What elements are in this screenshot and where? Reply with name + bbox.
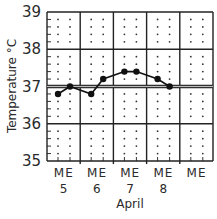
grid-dot xyxy=(69,108,71,110)
grid-dot xyxy=(90,26,92,28)
x-label-e: E xyxy=(198,166,206,180)
data-point xyxy=(133,68,139,74)
grid-dot xyxy=(136,93,138,95)
grid-dot xyxy=(169,108,171,110)
grid-dot xyxy=(90,108,92,110)
grid-dot xyxy=(90,153,92,155)
grid-dot xyxy=(169,145,171,147)
y-tick-label: 38 xyxy=(22,40,41,58)
grid-dot xyxy=(124,153,126,155)
y-tick-label: 35 xyxy=(22,152,41,170)
grid-dot xyxy=(102,63,104,65)
grid-dot xyxy=(190,26,192,28)
grid-dot xyxy=(102,153,104,155)
grid-dot xyxy=(157,63,159,65)
grid-dot xyxy=(157,130,159,132)
grid-dot xyxy=(69,71,71,73)
grid-dot xyxy=(190,33,192,35)
grid-dot xyxy=(136,108,138,110)
grid-dot xyxy=(69,115,71,117)
grid-dot xyxy=(202,78,204,80)
grid-dot xyxy=(169,78,171,80)
x-label-e: E xyxy=(165,166,173,180)
grid-dot xyxy=(57,19,59,21)
grid-dot xyxy=(136,19,138,21)
temperature-chart: 3938373635 ME5ME6ME7ME8ME Temperature °C… xyxy=(0,0,217,219)
data-point xyxy=(67,83,73,89)
grid-dot xyxy=(57,115,59,117)
grid-dot xyxy=(190,71,192,73)
grid-dot xyxy=(157,108,159,110)
grid-dot xyxy=(124,101,126,103)
grid-dot xyxy=(169,93,171,95)
data-point xyxy=(88,91,94,97)
grid-dot xyxy=(202,26,204,28)
x-label-e: E xyxy=(132,166,140,180)
grid-dot xyxy=(190,115,192,117)
grid-dot xyxy=(202,115,204,117)
grid-dot xyxy=(136,145,138,147)
data-point xyxy=(100,76,106,82)
grid-dot xyxy=(202,130,204,132)
grid-dot xyxy=(157,138,159,140)
grid-dot xyxy=(202,145,204,147)
grid-dot xyxy=(102,138,104,140)
grid-dot xyxy=(57,145,59,147)
x-label-m: M xyxy=(153,166,163,180)
grid-dot xyxy=(69,130,71,132)
grid-dot xyxy=(190,93,192,95)
y-axis-title: Temperature °C xyxy=(5,39,19,134)
grid-dot xyxy=(102,56,104,58)
grid-dot xyxy=(57,56,59,58)
grid-dot xyxy=(69,63,71,65)
grid-dot xyxy=(90,78,92,80)
grid-dot xyxy=(102,41,104,43)
grid-dot xyxy=(157,115,159,117)
grid-dot xyxy=(102,93,104,95)
y-tick-label: 36 xyxy=(22,115,41,133)
grid-dot xyxy=(169,26,171,28)
grid-dot xyxy=(102,108,104,110)
grid-dot xyxy=(90,138,92,140)
grid-dot xyxy=(69,145,71,147)
grid-dot xyxy=(69,56,71,58)
grid-dot xyxy=(190,19,192,21)
grid-dot xyxy=(124,26,126,28)
grid-dot xyxy=(169,71,171,73)
x-label-day: 8 xyxy=(159,182,167,196)
data-point xyxy=(154,76,160,82)
grid-dot xyxy=(57,108,59,110)
grid-dot xyxy=(57,78,59,80)
grid-dot xyxy=(202,93,204,95)
grid-dot xyxy=(102,101,104,103)
data-point xyxy=(121,68,127,74)
grid-dot xyxy=(124,56,126,58)
grid-dot xyxy=(157,153,159,155)
grid-dot xyxy=(169,153,171,155)
grid-dot xyxy=(169,101,171,103)
grid-dot xyxy=(124,108,126,110)
grid-dot xyxy=(57,41,59,43)
grid-dot xyxy=(57,63,59,65)
grid-dot xyxy=(169,33,171,35)
grid-dot xyxy=(90,33,92,35)
grid-dot xyxy=(90,71,92,73)
grid-dot xyxy=(124,41,126,43)
grid-dot xyxy=(102,71,104,73)
grid-dot xyxy=(57,153,59,155)
grid-dot xyxy=(57,26,59,28)
x-axis-title: April xyxy=(116,197,143,211)
grid-dot xyxy=(169,63,171,65)
grid-dot xyxy=(190,153,192,155)
grid-dot xyxy=(157,56,159,58)
x-label-e: E xyxy=(65,166,73,180)
grid-dot xyxy=(157,93,159,95)
grid-dot xyxy=(124,115,126,117)
grid-dot xyxy=(190,145,192,147)
grid-dot xyxy=(157,19,159,21)
grid-dot xyxy=(124,78,126,80)
grid-dot xyxy=(169,56,171,58)
grid-dot xyxy=(90,145,92,147)
grid-dot xyxy=(102,115,104,117)
grid-dot xyxy=(136,153,138,155)
